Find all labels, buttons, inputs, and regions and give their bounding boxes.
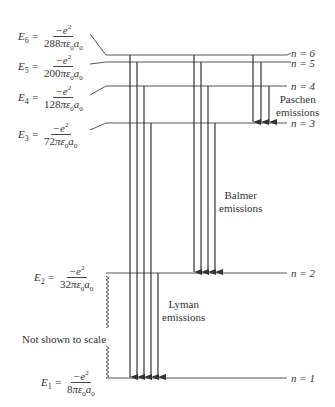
balmer-label: Balmeremissions — [219, 189, 262, 215]
level-label-n4: n = 4 — [291, 80, 315, 92]
energy-equation-e1: E1 = −e28πε0a0 — [41, 367, 97, 400]
level-label-n1: n = 1 — [291, 372, 315, 384]
paschen-arrows — [253, 55, 269, 122]
balmer-arrows — [194, 55, 215, 272]
lyman-arrows — [130, 55, 158, 377]
energy-equation-e6: E6 = −e2288πε0a0 — [18, 21, 85, 54]
leader-lines — [90, 34, 106, 130]
scale-note: Not shown to scale — [22, 334, 106, 345]
level-label-n5: n = 5 — [291, 57, 315, 69]
lyman-label: Lymanemissions — [162, 298, 205, 324]
energy-equation-e3: E3 = −e272πε0a0 — [18, 119, 79, 152]
level-lines — [106, 55, 287, 378]
energy-equation-e5: E5 = −e2200πε0a0 — [18, 51, 85, 84]
break-mark-upper — [106, 276, 109, 328]
break-mark-lower — [106, 346, 109, 378]
level-label-n2: n = 2 — [291, 267, 315, 279]
energy-equation-e4: E4 = −e2128πε0a0 — [18, 82, 85, 115]
paschen-label: Paschenemissions — [276, 93, 319, 119]
energy-equation-e2: E2 = −e232πε0a0 — [34, 262, 95, 295]
